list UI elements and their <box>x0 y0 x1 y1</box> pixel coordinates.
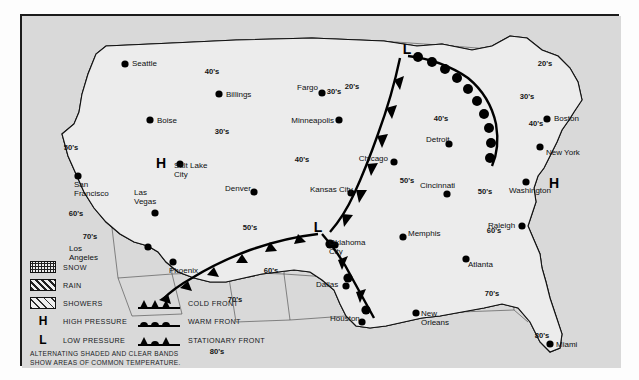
city-dot <box>546 340 553 347</box>
city-dot <box>146 116 153 123</box>
low-pressure-icon: L <box>30 334 56 346</box>
city-label: Denver <box>225 184 251 193</box>
map-panel: SeattleBoiseBillingsFargoMinneapolisSanF… <box>20 14 619 366</box>
temperature-band-label: 40's <box>205 67 219 76</box>
low-pressure-center: L <box>314 219 323 235</box>
legend-note-line-2: SHOW AREAS OF COMMON TEMPERATURE. <box>30 358 181 367</box>
warm-front-icon <box>138 315 180 327</box>
legend-label-stationary-front: STATIONARY FRONT <box>188 336 265 345</box>
legend-item-low-pressure: L LOW PRESSURE <box>30 333 125 347</box>
showers-swatch-icon <box>30 297 56 309</box>
city-dot <box>144 243 151 250</box>
legend-label-showers: SHOWERS <box>63 299 103 308</box>
city-dot <box>318 89 325 96</box>
temperature-band-label: 50's <box>243 223 257 232</box>
rain-swatch-icon <box>30 279 56 291</box>
city-dot <box>335 116 342 123</box>
city-dot <box>443 190 450 197</box>
temperature-band-label: 40's <box>434 114 448 123</box>
city-dot <box>536 143 543 150</box>
legend-label-low-pressure: LOW PRESSURE <box>63 336 125 345</box>
temperature-band-label: 20's <box>345 82 359 91</box>
city-dot <box>250 188 257 195</box>
city-label: Kansas City <box>310 185 353 194</box>
legend-label-high-pressure: HIGH PRESSURE <box>63 317 127 326</box>
high-pressure-center: H <box>156 155 166 171</box>
city-label: Houston <box>330 314 360 323</box>
city-dot <box>215 90 222 97</box>
high-pressure-center: H <box>549 175 559 191</box>
city-dot <box>518 222 525 229</box>
snow-swatch-icon <box>30 261 56 273</box>
map-legend: SNOW RAIN SHOWERS H HIGH PRESSURE L LOW … <box>30 260 280 360</box>
city-dot <box>342 282 349 289</box>
city-dot <box>151 209 158 216</box>
city-dot <box>412 309 419 316</box>
city-label: Detroit <box>426 135 450 144</box>
legend-item-stationary-front: STATIONARY FRONT <box>138 333 265 347</box>
temperature-band-label: 40's <box>529 119 543 128</box>
city-label: Washington <box>509 186 551 195</box>
legend-item-rain: RAIN <box>30 278 82 292</box>
temperature-band-label: 20's <box>538 59 552 68</box>
city-label: Atlanta <box>468 260 493 269</box>
temperature-band-label: 60's <box>69 209 83 218</box>
city-label: Dallas <box>316 280 338 289</box>
low-pressure-center: L <box>403 41 412 57</box>
city-label: Fargo <box>297 83 318 92</box>
legend-item-warm-front: WARM FRONT <box>138 314 241 328</box>
legend-label-warm-front: WARM FRONT <box>188 317 241 326</box>
legend-label-rain: RAIN <box>63 281 82 290</box>
temperature-band-label: 30's <box>327 87 341 96</box>
temperature-band-label: 60's <box>487 226 501 235</box>
temperature-band-label: 70's <box>83 232 97 241</box>
city-dot <box>543 115 550 122</box>
temperature-band-label: 40's <box>295 155 309 164</box>
high-pressure-icon: H <box>30 315 56 327</box>
stationary-front-icon <box>138 334 180 346</box>
city-label: Cincinnati <box>420 181 455 190</box>
city-dot <box>399 233 406 240</box>
temperature-band-label: 30's <box>215 127 229 136</box>
temperature-band-label: 50's <box>64 143 78 152</box>
city-label: Minneapolis <box>291 116 334 125</box>
temperature-band-label: 50's <box>478 187 492 196</box>
cold-front-icon <box>138 297 180 309</box>
legend-item-high-pressure: H HIGH PRESSURE <box>30 314 127 328</box>
legend-label-snow: SNOW <box>63 263 87 272</box>
city-dot <box>390 158 397 165</box>
temperature-band-label: 50's <box>400 176 414 185</box>
city-label: Seattle <box>132 59 157 68</box>
weather-map-page: SeattleBoiseBillingsFargoMinneapolisSanF… <box>0 0 639 380</box>
city-label: Chicago <box>359 154 389 163</box>
legend-item-snow: SNOW <box>30 260 87 274</box>
legend-label-cold-front: COLD FRONT <box>188 299 238 308</box>
temperature-band-label: 30's <box>520 92 534 101</box>
legend-item-showers: SHOWERS <box>30 296 103 310</box>
city-label: Boston <box>554 114 579 123</box>
city-label: Boise <box>157 116 178 125</box>
city-dot <box>522 178 529 185</box>
city-label: New York <box>546 148 581 157</box>
legend-note-line-1: ALTERNATING SHADED AND CLEAR BANDS <box>30 349 181 358</box>
legend-note: ALTERNATING SHADED AND CLEAR BANDS SHOW … <box>30 349 181 368</box>
city-dot <box>121 60 128 67</box>
legend-item-cold-front: COLD FRONT <box>138 296 238 310</box>
city-dot <box>74 172 81 179</box>
temperature-band-label: 80's <box>535 331 549 340</box>
city-label: Billings <box>226 90 251 99</box>
city-label: Miami <box>556 340 578 349</box>
city-label: Memphis <box>408 229 440 238</box>
temperature-band-label: 70's <box>485 289 499 298</box>
